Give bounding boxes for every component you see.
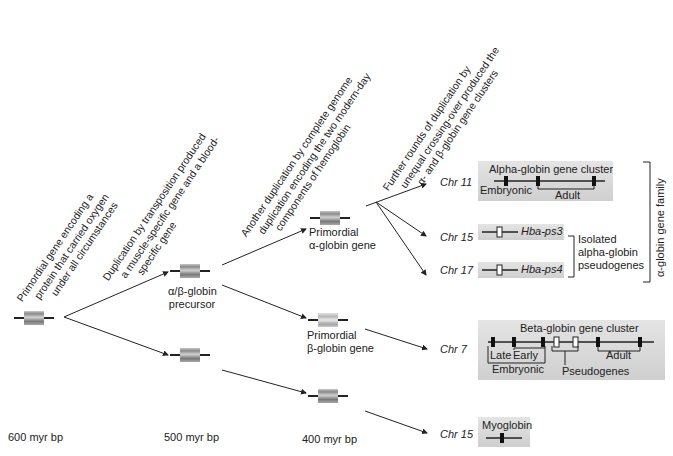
beta-late-label: Late	[490, 349, 511, 362]
chr11-label: Chr 11	[440, 176, 472, 189]
chr7-label: Chr 7	[440, 343, 467, 356]
alpha-cluster-box: Alpha-globin gene cluster Embryonic Adul…	[478, 161, 613, 201]
alpha-embryonic-label: Embryonic	[480, 184, 532, 197]
alpha-primordial-gene-icon	[310, 211, 350, 225]
beta-primordial-label: Primordialβ-globin gene	[307, 329, 374, 355]
timeline-600: 600 myr bp	[8, 431, 63, 444]
beta-embryonic-label: Embryonic	[492, 363, 544, 376]
timeline-400: 400 myr bp	[302, 433, 357, 446]
myoglobin-box: Myoglobin	[478, 417, 530, 447]
hba-ps4-label: Hba-ps4	[521, 263, 563, 276]
beta-primordial-gene-icon	[308, 313, 348, 327]
alpha-primordial-label: Primordialα-globin gene	[309, 226, 376, 252]
hba-ps3-label: Hba-ps3	[521, 225, 563, 238]
beta-pseudogenes-label: Pseudogenes	[562, 365, 629, 378]
myoglobin-primordial-gene-icon	[308, 389, 348, 403]
beta-early-label: Early	[513, 349, 538, 362]
alpha-adult-label: Adult	[555, 189, 580, 202]
alpha-family-label: α-globin gene family	[654, 178, 667, 277]
chr15-pseudo-label: Chr 15	[440, 231, 473, 244]
isolated-pseudogenes-label: Isolatedalpha-globinpseudogenes	[578, 233, 644, 272]
ab-precursor-gene-icon	[170, 264, 210, 278]
primordial-gene-icon	[14, 311, 54, 325]
timeline-500: 500 myr bp	[164, 431, 219, 444]
chr15-myoglobin-label: Chr 15	[440, 428, 473, 441]
beta-cluster-box: Beta-globin gene cluster Late Early Embr…	[478, 320, 665, 380]
ab-precursor-label: α/β-globinprecursor	[168, 285, 216, 311]
myoglobin-precursor-gene-icon	[170, 348, 210, 362]
beta-adult-label: Adult	[606, 349, 631, 362]
chr17-label: Chr 17	[440, 264, 473, 277]
hba-ps3-box: Hba-ps3	[478, 224, 564, 240]
hba-ps4-box: Hba-ps4	[478, 262, 564, 278]
